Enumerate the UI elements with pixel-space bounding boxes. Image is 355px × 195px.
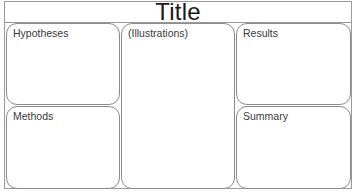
summary-panel[interactable]: Summary — [236, 106, 351, 189]
title-bar: Title — [4, 1, 352, 23]
illustrations-panel[interactable]: (Illustrations) — [121, 23, 235, 189]
results-panel[interactable]: Results — [236, 23, 351, 105]
methods-panel[interactable]: Methods — [6, 106, 120, 189]
hypotheses-label: Hypotheses — [13, 27, 68, 39]
illustrations-label: (Illustrations) — [128, 27, 188, 39]
summary-label: Summary — [243, 110, 288, 122]
hypotheses-panel[interactable]: Hypotheses — [6, 23, 120, 105]
results-label: Results — [243, 27, 278, 39]
methods-label: Methods — [13, 110, 53, 122]
poster-title[interactable]: Title — [155, 1, 200, 23]
